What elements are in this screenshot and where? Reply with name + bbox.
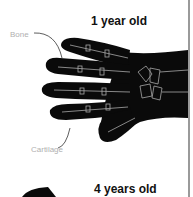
panel-divider [188,0,190,197]
bone-leader-line [34,33,62,58]
hand-silhouette-4-years [22,187,56,197]
panel-title-1-year: 1 year old [91,14,147,28]
cartilage-label: Cartilage [31,145,63,154]
xray-hand-infographic: 1 year old 4 years old Bone Cartilage [0,0,193,197]
bone-label: Bone [10,30,29,39]
panel-title-4-years: 4 years old [94,182,157,196]
